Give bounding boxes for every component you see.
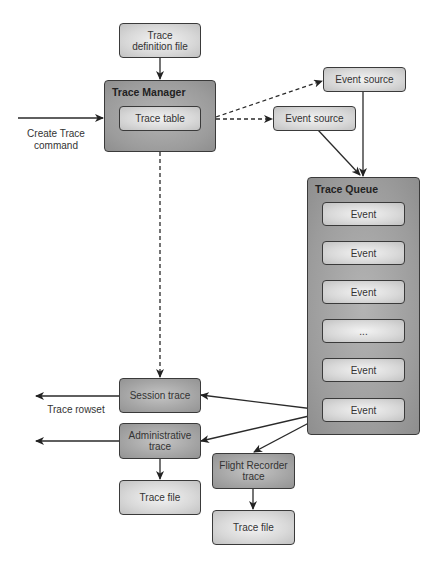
event-source-label-2: Event source xyxy=(285,113,343,124)
event-source-node-2: Event source xyxy=(273,106,356,131)
trace-queue-title: Trace Queue xyxy=(315,183,378,195)
trace-file-flight-node: Trace file xyxy=(212,510,295,545)
arrow-event-to-session-trace xyxy=(201,395,322,410)
queue-event-ellipsis: ... xyxy=(322,319,405,343)
administrative-trace-node: Administrative trace xyxy=(119,423,201,459)
trace-file-admin-node: Trace file xyxy=(119,480,201,515)
session-trace-node: Session trace xyxy=(119,378,201,413)
arrow-event-source-2-to-queue xyxy=(318,130,360,175)
trace-file-flight-label: Trace file xyxy=(233,522,274,533)
trace-file-admin-label: Trace file xyxy=(140,492,181,503)
event-source-label-1: Event source xyxy=(335,74,393,85)
flight-recorder-trace-node: Flight Recorder trace xyxy=(212,453,295,489)
trace-manager-title: Trace Manager xyxy=(112,86,186,98)
trace-definition-file-node: Trace definition file xyxy=(119,23,201,58)
flight-recorder-trace-label: Flight Recorder trace xyxy=(217,460,290,482)
event-source-node-1: Event source xyxy=(323,67,406,92)
trace-rowset-label: Trace rowset xyxy=(46,404,106,416)
queue-event-6: Event xyxy=(322,398,405,422)
queue-event-5: Event xyxy=(322,358,405,382)
administrative-trace-label: Administrative trace xyxy=(126,430,194,452)
trace-definition-file-label: Trace definition file xyxy=(132,30,188,52)
create-trace-command-label: Create Trace command xyxy=(26,128,86,152)
queue-event-3: Event xyxy=(322,280,405,304)
session-trace-label: Session trace xyxy=(130,390,191,401)
trace-manager-node: Trace Manager Trace table xyxy=(104,80,216,152)
trace-table-node: Trace table xyxy=(119,106,201,131)
queue-event-1: Event xyxy=(322,202,405,226)
trace-table-label: Trace table xyxy=(135,113,185,124)
queue-event-2: Event xyxy=(322,241,405,265)
arrow-event-to-administrative-trace xyxy=(201,413,322,441)
